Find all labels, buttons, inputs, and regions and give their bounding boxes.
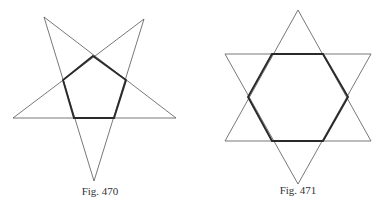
hexagram-triangle-up xyxy=(225,10,371,141)
fig-471-hexagram xyxy=(225,10,371,184)
figures-canvas xyxy=(0,0,376,207)
inner-hexagon xyxy=(248,54,348,141)
hexagram-triangle-down xyxy=(225,54,371,184)
pentagram-star xyxy=(13,17,176,181)
fig-470-caption: Fig. 470 xyxy=(82,185,119,197)
fig-471-caption: Fig. 471 xyxy=(280,184,317,196)
fig-470-pentagram xyxy=(13,17,176,181)
inner-pentagon xyxy=(63,56,126,118)
